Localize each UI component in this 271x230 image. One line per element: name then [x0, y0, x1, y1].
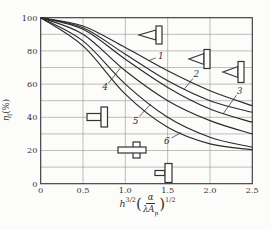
grid-lines	[41, 18, 253, 184]
outer-exponent: 1/2	[165, 196, 175, 204]
curve-number-label: 5	[133, 116, 139, 126]
curve-1	[41, 18, 253, 106]
y-tick-label: 60	[27, 79, 37, 89]
curve-number-label: 3	[237, 86, 243, 96]
left-paren: (	[136, 195, 142, 213]
curve-number-label: 6	[164, 136, 170, 146]
fin-efficiency-chart: ηf(%)	[0, 0, 271, 230]
x-axis-formula: h3/2(αλAp)1/2	[24, 193, 271, 215]
fraction-denominator: λAp	[143, 204, 158, 216]
curve-number-label: 2	[193, 69, 200, 79]
triangular-spike-fin-icon-2	[189, 50, 210, 69]
y-tick-label: 20	[27, 145, 37, 155]
formula-fraction: αλAp	[143, 193, 158, 215]
y-tick-label: 80	[27, 46, 37, 56]
fraction-numerator: α	[146, 193, 156, 204]
triangular-spike-fin-icon-1	[139, 26, 162, 44]
triangular-spike-fin-icon-3	[223, 62, 244, 83]
y-tick-label: 100	[22, 13, 38, 23]
curve-2	[41, 18, 253, 113]
x-axis-exponent: 3/2	[126, 196, 136, 204]
y-tick-label: 0	[32, 179, 37, 189]
curve-label-leader	[172, 133, 182, 138]
rectangular-straight-fin-icon	[87, 107, 108, 127]
curve-number-label: 1	[158, 51, 164, 61]
area-subscript: p	[154, 208, 158, 215]
curve-number-label: 4	[101, 82, 108, 92]
y-tick-label: 40	[27, 112, 37, 122]
curve-label-leader	[149, 58, 156, 61]
rectangular-spine-fin-icon	[155, 164, 172, 183]
cruciform-fin-icon	[118, 142, 146, 158]
curve-number-labels: 123456	[101, 51, 243, 146]
